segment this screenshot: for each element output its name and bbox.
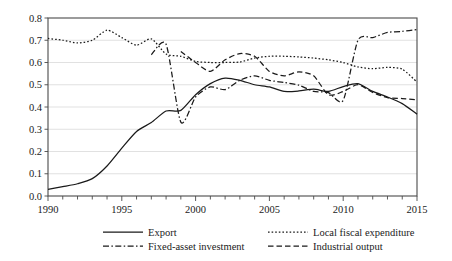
x-tick-label: 2005 [259,204,280,215]
legend-label-export: Export [148,227,177,238]
series-line-export [48,78,417,189]
x-tick-label: 2010 [333,204,354,215]
y-tick-label: 0.2 [29,146,42,157]
series-layer [48,30,417,190]
line-chart: 0.00.10.20.30.40.50.60.70.8 199019952000… [0,0,452,261]
y-tick-label: 0.1 [29,168,42,179]
chart-figure: 0.00.10.20.30.40.50.60.70.8 199019952000… [0,0,452,261]
x-tick-label: 2000 [185,204,206,215]
y-tick-label: 0.4 [29,102,43,113]
y-tick-label: 0.5 [29,79,42,90]
gridlines [48,40,417,174]
legend-label-fixed-asset-investment: Fixed-asset investment [148,241,245,252]
y-tick-label: 0.6 [29,57,42,68]
y-tick-label: 0.0 [29,191,42,202]
series-line-industrial-output [181,51,417,99]
y-axis-tick-labels: 0.00.10.20.30.40.50.60.70.8 [29,13,48,202]
x-tick-label: 1990 [38,204,59,215]
y-tick-label: 0.3 [29,124,42,135]
x-tick-label: 2015 [407,204,428,215]
x-axis-tick-labels: 199019952000200520102015 [38,204,428,215]
y-tick-label: 0.7 [29,35,42,46]
x-tick-label: 1995 [111,204,132,215]
y-tick-label: 0.8 [29,13,42,24]
legend-label-local-fiscal-expenditure: Local fiscal expenditure [313,227,415,238]
chart-legend: ExportLocal fiscal expenditureFixed-asse… [103,227,415,252]
legend-label-industrial-output: Industrial output [313,241,383,252]
x-axis-tick-marks [48,196,417,201]
